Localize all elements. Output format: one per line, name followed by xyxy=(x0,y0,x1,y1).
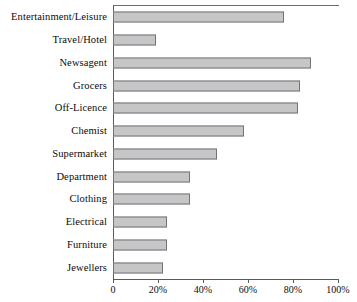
bar-row: Supermarket xyxy=(0,143,357,166)
bar-row: Jewellers xyxy=(0,256,357,279)
x-tick-mark xyxy=(293,279,294,283)
bar xyxy=(113,239,167,250)
x-tick-mark xyxy=(248,279,249,283)
bar-track xyxy=(113,211,338,234)
bar-row: Newsagent xyxy=(0,52,357,75)
bar xyxy=(113,171,190,182)
bar xyxy=(113,35,156,46)
x-tick-mark xyxy=(113,279,114,283)
bar xyxy=(113,148,217,159)
bar-category-label: Supermarket xyxy=(52,149,107,160)
bar xyxy=(113,103,298,114)
x-tick-mark xyxy=(158,279,159,283)
bar-track xyxy=(113,120,338,143)
bar-category-label: Clothing xyxy=(69,194,107,205)
bar-row: Entertainment/Leisure xyxy=(0,6,357,29)
bar-rows: Entertainment/LeisureTravel/HotelNewsage… xyxy=(0,6,357,279)
bar xyxy=(113,80,300,91)
bar-category-label: Off-Licence xyxy=(55,103,107,114)
x-tick-label: 0 xyxy=(111,285,116,295)
bar-category-label: Travel/Hotel xyxy=(53,35,107,46)
bar-category-label: Entertainment/Leisure xyxy=(11,12,107,23)
x-tick-mark xyxy=(338,279,339,283)
bar-track xyxy=(113,188,338,211)
bar-category-label: Electrical xyxy=(66,217,107,228)
bar-track xyxy=(113,143,338,166)
bar xyxy=(113,12,284,23)
x-tick-label: 60% xyxy=(239,285,257,295)
bar-category-label: Furniture xyxy=(67,240,107,251)
bar-row: Electrical xyxy=(0,211,357,234)
bar xyxy=(113,262,163,273)
bar-category-label: Chemist xyxy=(71,126,107,137)
bar-track xyxy=(113,29,338,52)
bar-category-label: Newsagent xyxy=(59,58,107,69)
bar xyxy=(113,126,244,137)
bar-track xyxy=(113,165,338,188)
bar-category-label: Jewellers xyxy=(67,262,107,273)
x-tick-label: 100% xyxy=(326,285,349,295)
bar-row: Furniture xyxy=(0,234,357,257)
x-axis-ticks: 020%40%60%80%100% xyxy=(113,279,339,301)
bar-category-label: Grocers xyxy=(73,80,107,91)
bar-track xyxy=(113,97,338,120)
bar-row: Clothing xyxy=(0,188,357,211)
x-tick-label: 20% xyxy=(149,285,167,295)
bar-chart: Entertainment/LeisureTravel/HotelNewsage… xyxy=(0,0,357,302)
bar-track xyxy=(113,52,338,75)
x-tick-label: 80% xyxy=(284,285,302,295)
x-tick-mark xyxy=(203,279,204,283)
bar-track xyxy=(113,74,338,97)
bar-category-label: Department xyxy=(56,171,107,182)
bar xyxy=(113,57,311,68)
bar-track xyxy=(113,234,338,257)
bar-track xyxy=(113,6,338,29)
bar-row: Chemist xyxy=(0,120,357,143)
x-tick-label: 40% xyxy=(194,285,212,295)
bar xyxy=(113,194,190,205)
bar-row: Department xyxy=(0,165,357,188)
bar xyxy=(113,217,167,228)
bar-row: Travel/Hotel xyxy=(0,29,357,52)
bar-row: Off-Licence xyxy=(0,97,357,120)
bar-row: Grocers xyxy=(0,74,357,97)
bar-track xyxy=(113,256,338,279)
